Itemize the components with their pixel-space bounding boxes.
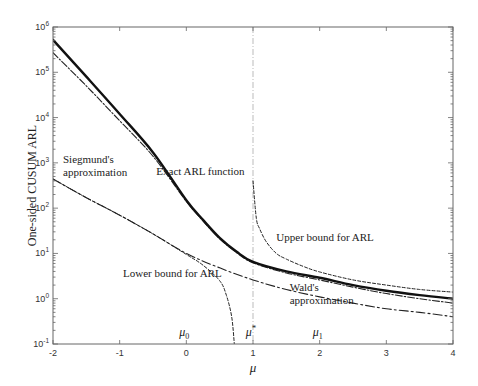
annotation-approximation: approximation bbox=[290, 294, 355, 306]
y-tick-label: 105 bbox=[35, 65, 49, 77]
x-axis-label: μ bbox=[249, 360, 257, 375]
y-tick-label: 101 bbox=[35, 246, 49, 258]
x-tick-label: 2 bbox=[317, 348, 322, 358]
x-tick-label: -2 bbox=[49, 348, 57, 358]
annotation-wald-s: Wald's bbox=[290, 281, 319, 293]
arl-chart: -2-10123410-1100101102103104105106 μOne-… bbox=[0, 0, 478, 386]
chart-canvas: -2-10123410-1100101102103104105106 μOne-… bbox=[0, 0, 478, 386]
x-tick-label: 3 bbox=[384, 348, 389, 358]
clipped-curves bbox=[53, 27, 453, 344]
annotation-approximation: approximation bbox=[63, 166, 128, 178]
y-tick-label: 104 bbox=[35, 111, 49, 123]
y-tick-label: 106 bbox=[35, 20, 49, 32]
x-marker-μstar: μ* bbox=[245, 323, 257, 339]
annotation-lower-bound-for-arl: Lower bound for ARL bbox=[123, 267, 222, 279]
curves-layer bbox=[53, 27, 453, 344]
x-marker-μ1: μ1 bbox=[312, 325, 323, 341]
annotation-exact-arl-function: Exact ARL function bbox=[156, 165, 245, 177]
x-tick-label: -1 bbox=[116, 348, 124, 358]
x-tick-label: 1 bbox=[250, 348, 255, 358]
x-tick-label: 0 bbox=[184, 348, 189, 358]
labels-layer: μOne-sided CUSUM ARLμ0μ*μ1Siegmund'sappr… bbox=[25, 125, 374, 375]
x-tick-label: 4 bbox=[450, 348, 455, 358]
lower-bound-for-arl-curve bbox=[53, 179, 234, 344]
y-tick-label: 10-1 bbox=[33, 337, 49, 349]
x-marker-μ0: μ0 bbox=[178, 325, 189, 341]
y-axis-label: One-sided CUSUM ARL bbox=[25, 125, 39, 246]
y-tick-label: 100 bbox=[35, 292, 49, 304]
axes-layer: -2-10123410-1100101102103104105106 bbox=[33, 20, 455, 358]
annotation-siegmund-s: Siegmund's bbox=[63, 153, 114, 165]
annotation-upper-bound-for-arl: Upper bound for ARL bbox=[276, 231, 374, 243]
